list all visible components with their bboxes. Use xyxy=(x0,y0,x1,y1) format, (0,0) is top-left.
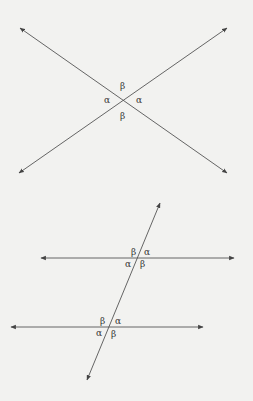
angle-label-top: β xyxy=(120,81,125,91)
transversal-line xyxy=(87,203,160,380)
lower-angle-top-right: α xyxy=(115,316,121,326)
upper-angle-top-right: α xyxy=(144,247,150,257)
vertical-angles-figure: β α α β xyxy=(19,28,227,173)
parallel-lines-figure: β α α β β α α β xyxy=(11,203,234,380)
angle-diagrams: β α α β β α α β β α α β xyxy=(0,0,253,401)
angle-label-left: α xyxy=(104,95,110,105)
angle-label-bottom: β xyxy=(120,111,125,121)
upper-angle-bottom-left: α xyxy=(125,259,131,269)
lower-angle-bottom-right: β xyxy=(111,329,116,339)
lower-angle-top-left: β xyxy=(100,316,105,326)
upper-angle-bottom-right: β xyxy=(140,259,145,269)
upper-angle-top-left: β xyxy=(131,247,136,257)
angle-label-right: α xyxy=(136,95,142,105)
lower-angle-bottom-left: α xyxy=(96,328,102,338)
